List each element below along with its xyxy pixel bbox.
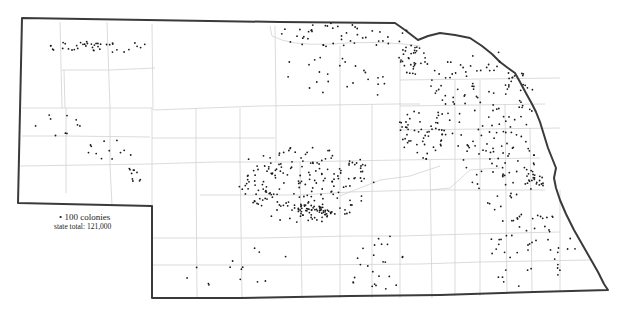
colony-dot	[413, 111, 415, 113]
colony-dot	[101, 158, 103, 160]
colony-dot	[498, 276, 500, 278]
colony-dot	[263, 181, 265, 183]
colony-dot	[502, 176, 504, 178]
colony-dot	[120, 152, 122, 154]
colony-dot	[520, 136, 522, 138]
colony-dot	[442, 99, 444, 101]
colony-dot	[255, 193, 257, 195]
colony-dot	[440, 144, 442, 146]
colony-dot	[278, 164, 280, 166]
colony-dot	[356, 28, 358, 30]
colony-dot	[241, 188, 243, 190]
colony-dot	[542, 182, 544, 184]
colony-dot	[90, 144, 92, 146]
colony-dot	[310, 214, 312, 216]
colony-dot	[557, 264, 559, 266]
colony-dot	[309, 174, 311, 176]
colony-dot	[430, 125, 432, 127]
colony-dot	[486, 143, 488, 145]
colony-dot	[266, 191, 268, 193]
colony-dot	[409, 72, 411, 74]
colony-dot	[136, 45, 138, 47]
colony-dot	[362, 247, 364, 249]
colony-dot	[462, 67, 464, 69]
colony-dot	[62, 42, 64, 44]
colony-dot	[513, 220, 515, 222]
colony-dot	[526, 124, 528, 126]
colony-dot	[388, 276, 390, 278]
colony-dot	[352, 24, 354, 26]
colony-dot	[341, 39, 343, 41]
colony-dot	[332, 27, 334, 29]
colony-dot	[291, 161, 293, 163]
colony-dot	[474, 145, 476, 147]
colony-dot	[314, 180, 316, 182]
colony-dot	[257, 281, 259, 283]
colony-dot	[520, 214, 522, 216]
colony-dot	[536, 181, 538, 183]
colony-dot	[441, 134, 443, 136]
colony-dot	[425, 158, 427, 160]
colony-dot	[478, 187, 480, 189]
colony-dot	[414, 130, 416, 132]
colony-dot	[305, 153, 307, 155]
colony-dot	[298, 187, 300, 189]
colony-dot	[529, 180, 531, 182]
colony-dot	[473, 86, 475, 88]
colony-dot	[514, 119, 516, 121]
colony-dot	[288, 201, 290, 203]
colony-dot	[123, 51, 125, 53]
colony-dot	[307, 38, 309, 40]
colony-dot	[316, 162, 318, 164]
colony-dot	[500, 239, 502, 241]
colony-dot	[55, 135, 57, 137]
colony-dot	[405, 121, 407, 123]
colony-dot	[524, 167, 526, 169]
colony-dot	[400, 129, 402, 131]
colony-dot	[557, 251, 559, 253]
colony-dot	[357, 34, 359, 36]
colony-dot	[322, 206, 324, 208]
colony-dot	[419, 47, 421, 49]
colony-dot	[546, 217, 548, 219]
colony-dot	[324, 211, 326, 213]
colony-dot	[196, 267, 198, 269]
colony-dot	[359, 159, 361, 161]
colony-dot	[265, 280, 267, 282]
colony-dot	[539, 175, 541, 177]
colony-dot	[377, 77, 379, 79]
colony-dot	[112, 51, 114, 53]
colony-dot	[403, 146, 405, 148]
colony-dot	[457, 145, 459, 147]
colony-dot	[322, 92, 324, 94]
colony-dot	[533, 154, 535, 156]
colony-dot	[547, 239, 549, 241]
colony-dot	[424, 144, 426, 146]
colony-dot	[330, 157, 332, 159]
colony-dot	[314, 217, 316, 219]
colony-dot	[420, 62, 422, 64]
colony-dot	[527, 249, 529, 251]
colony-dot	[208, 283, 210, 285]
colony-dot	[410, 45, 412, 47]
colony-dot	[302, 214, 304, 216]
colony-dot	[322, 203, 324, 205]
colony-dot	[318, 206, 320, 208]
colony-dot	[314, 59, 316, 61]
colony-dot	[569, 238, 571, 240]
colony-dot	[357, 257, 359, 259]
colony-dot	[310, 205, 312, 207]
colony-dot	[437, 112, 439, 114]
colony-dot	[529, 150, 531, 152]
colony-dot	[308, 208, 310, 210]
colony-dot	[404, 138, 406, 140]
colony-dot	[281, 166, 283, 168]
colony-dot	[525, 141, 527, 143]
colony-dot	[274, 175, 276, 177]
colony-dot	[524, 183, 526, 185]
colony-dot	[489, 203, 491, 205]
colony-dot	[506, 143, 508, 145]
colony-dot	[463, 95, 465, 97]
colony-dot	[82, 43, 84, 45]
colony-dot	[407, 124, 409, 126]
